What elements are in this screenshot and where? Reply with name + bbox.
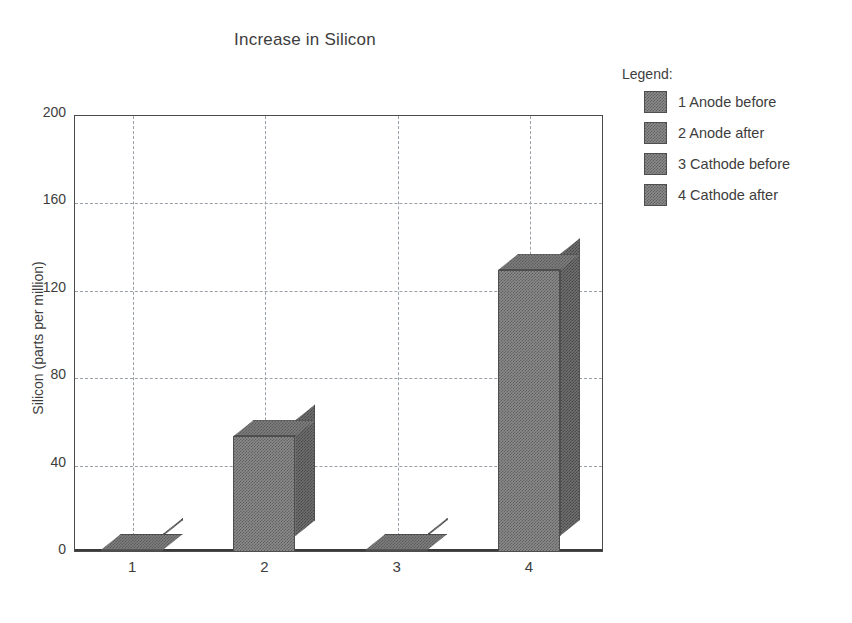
chart-title: Increase in Silicon	[0, 30, 610, 50]
x-tick-label: 2	[234, 558, 294, 575]
axis-baseline	[75, 549, 602, 551]
legend-item-label: 3 Cathode before	[678, 156, 790, 172]
legend-item: 3 Cathode before	[622, 153, 847, 175]
legend-item: 4 Cathode after	[622, 184, 847, 206]
plot-area	[74, 115, 603, 552]
gridline-category-4	[530, 116, 531, 551]
legend-item-list: 1 Anode before2 Anode after3 Cathode bef…	[622, 91, 847, 206]
legend-swatch-icon	[644, 184, 667, 206]
y-tick-label: 40	[12, 454, 72, 470]
y-tick-label: 80	[12, 366, 72, 382]
y-tick-label: 160	[12, 191, 72, 207]
legend-swatch-icon	[644, 153, 667, 175]
x-axis-tick-labels: 1234	[74, 558, 603, 586]
gridline-160	[75, 203, 602, 204]
legend: Legend: 1 Anode before2 Anode after3 Cat…	[622, 66, 847, 215]
x-tick-label: 4	[499, 558, 559, 575]
legend-swatch-icon	[644, 91, 667, 113]
y-tick-label: 120	[12, 279, 72, 295]
legend-item-label: 4 Cathode after	[678, 187, 778, 203]
gridline-120	[75, 291, 602, 292]
gridline-80	[75, 378, 602, 379]
gridline-40	[75, 466, 602, 467]
legend-title: Legend:	[622, 66, 847, 82]
gridline-category-1	[133, 116, 134, 551]
legend-item: 2 Anode after	[622, 122, 847, 144]
x-tick-label: 1	[102, 558, 162, 575]
legend-item-label: 2 Anode after	[678, 125, 764, 141]
legend-swatch-icon	[644, 122, 667, 144]
x-tick-label: 3	[367, 558, 427, 575]
legend-item-label: 1 Anode before	[678, 94, 776, 110]
gridline-category-3	[398, 116, 399, 551]
y-tick-label: 0	[12, 541, 72, 557]
chart-page: Increase in Silicon Silicon (parts per m…	[0, 0, 852, 623]
y-tick-label: 200	[12, 104, 72, 120]
y-axis-tick-labels: 04080120160200	[0, 115, 72, 552]
gridline-category-2	[265, 116, 266, 551]
legend-item: 1 Anode before	[622, 91, 847, 113]
